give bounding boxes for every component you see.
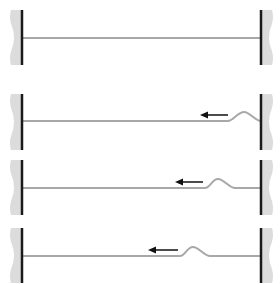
left-wall-block [10,94,22,150]
rope [22,112,261,121]
panel-4 [10,228,273,283]
panel-3 [10,160,273,215]
arrowhead-icon [200,112,208,119]
panel-1 [10,10,273,65]
right-wall-block [261,160,273,215]
right-wall-block [261,94,273,150]
panel-2 [10,94,273,150]
right-wall-block [261,10,273,65]
wave-pulse-diagram [0,0,280,284]
left-wall-block [10,10,22,65]
arrowhead-icon [148,247,156,254]
left-wall-block [10,228,22,283]
right-wall-block [261,228,273,283]
rope [22,247,261,256]
arrowhead-icon [175,179,183,186]
left-wall-block [10,160,22,215]
rope [22,179,261,188]
